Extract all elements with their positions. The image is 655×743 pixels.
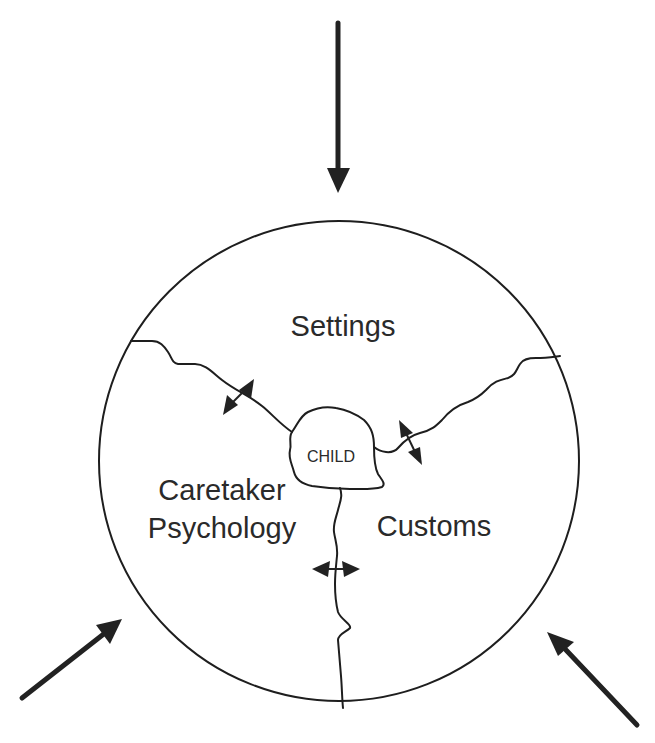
caretaker-label: Caretaker [158,474,286,506]
psychology-label: Psychology [148,512,297,544]
settings-label: Settings [291,310,396,342]
boundary-caretaker-customs [334,488,350,708]
external-arrow-top-icon [327,23,350,193]
external-arrow-bottom-right-icon [547,632,637,725]
developmental-niche-diagram: Settings Caretaker Psychology Customs CH… [0,0,655,743]
customs-label: Customs [377,510,491,542]
child-label: CHILD [307,448,355,465]
boundary-settings-caretaker [131,341,292,432]
external-arrow-bottom-left-icon [22,619,122,698]
boundary-settings-customs [374,356,560,452]
